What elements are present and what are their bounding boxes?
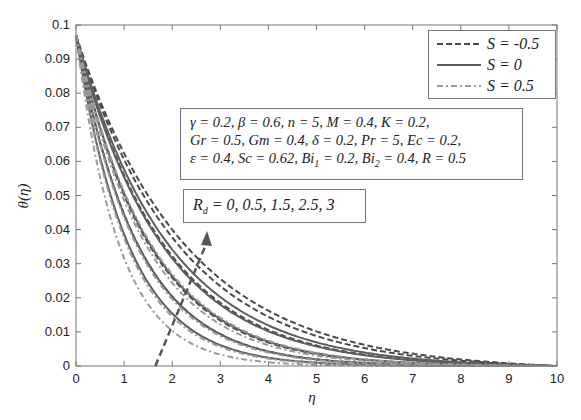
x-tick-label: 7 bbox=[409, 371, 416, 386]
x-tick-label: 1 bbox=[120, 371, 127, 386]
x-tick-label: 3 bbox=[217, 371, 224, 386]
legend-label: S = -0.5 bbox=[487, 35, 539, 53]
dashdot-line-icon bbox=[437, 83, 481, 89]
y-tick-label: 0.1 bbox=[52, 17, 70, 32]
legend: S = -0.5 S = 0 S = 0.5 bbox=[428, 30, 556, 99]
y-tick-label: 0 bbox=[63, 358, 70, 373]
legend-item-s-neg05: S = -0.5 bbox=[437, 34, 539, 54]
dashed-line-icon bbox=[437, 41, 481, 47]
y-tick-label: 0.03 bbox=[45, 256, 70, 271]
y-tick-label: 0.09 bbox=[45, 51, 70, 66]
x-tick-label: 0 bbox=[72, 371, 79, 386]
y-tick-label: 0.08 bbox=[45, 85, 70, 100]
legend-label: S = 0.5 bbox=[487, 77, 534, 95]
x-tick-label: 5 bbox=[313, 371, 320, 386]
y-axis-label: θ(η) bbox=[15, 184, 32, 209]
solid-line-icon bbox=[437, 62, 481, 68]
y-tick-label: 0.02 bbox=[45, 290, 70, 305]
parameters-box: γ = 0.2, β = 0.6, n = 5, M = 0.4, K = 0.… bbox=[180, 108, 523, 180]
legend-item-s-0: S = 0 bbox=[437, 55, 522, 75]
params-line-1: γ = 0.2, β = 0.6, n = 5, M = 0.4, K = 0.… bbox=[190, 113, 522, 131]
x-tick-label: 10 bbox=[550, 371, 564, 386]
x-tick-label: 2 bbox=[169, 371, 176, 386]
rd-annotation-box: Rd = 0, 0.5, 1.5, 2.5, 3 bbox=[183, 189, 366, 223]
y-tick-label: 0.04 bbox=[45, 222, 70, 237]
y-tick-label: 0.07 bbox=[45, 119, 70, 134]
y-tick-label: 0.06 bbox=[45, 153, 70, 168]
y-tick-label: 0.01 bbox=[45, 324, 70, 339]
legend-label: S = 0 bbox=[487, 56, 522, 74]
x-tick-label: 8 bbox=[457, 371, 464, 386]
y-tick-label: 0.05 bbox=[45, 188, 70, 203]
params-line-2: Gr = 0.5, Gm = 0.4, δ = 0.2, Pr = 5, Ec … bbox=[190, 131, 522, 149]
params-line-3: ε = 0.4, Sc = 0.62, Bi1 = 0.2, Bi2 = 0.4… bbox=[190, 149, 522, 173]
x-tick-label: 9 bbox=[505, 371, 512, 386]
x-tick-label: 4 bbox=[265, 371, 272, 386]
x-tick-label: 6 bbox=[361, 371, 368, 386]
legend-item-s-05: S = 0.5 bbox=[437, 76, 534, 96]
x-axis-label: η bbox=[308, 389, 315, 405]
